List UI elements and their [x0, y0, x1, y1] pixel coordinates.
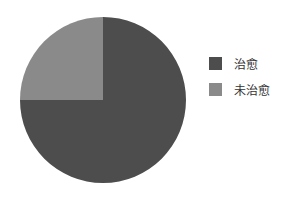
legend-item-cured: 治愈 [209, 50, 270, 76]
legend-label: 治愈 [234, 55, 258, 72]
pie-slice-1 [20, 17, 103, 100]
legend: 治愈 未治愈 [209, 50, 270, 102]
legend-swatch-cured [209, 57, 222, 70]
legend-item-uncured: 未治愈 [209, 76, 270, 102]
legend-label: 未治愈 [234, 81, 270, 98]
legend-swatch-uncured [209, 83, 222, 96]
